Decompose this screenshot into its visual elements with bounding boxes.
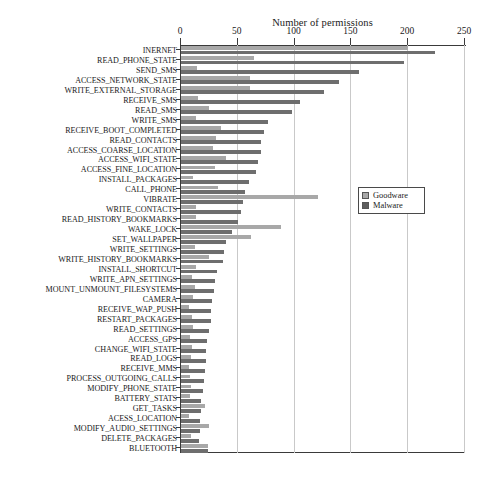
bar-malware <box>181 319 211 323</box>
y-tick-mark <box>176 248 180 249</box>
bar-goodware <box>181 335 190 339</box>
bar-goodware <box>181 166 215 170</box>
bar-malware <box>181 279 215 283</box>
bar-goodware <box>181 56 254 60</box>
y-tick-mark <box>176 188 180 189</box>
bar-goodware <box>181 315 192 319</box>
bar-malware <box>181 150 261 154</box>
bar-goodware <box>181 146 213 150</box>
bar-goodware <box>181 414 189 418</box>
x-tick-label: 250 <box>444 26 484 36</box>
bar-malware <box>181 260 223 264</box>
bar-goodware <box>181 305 189 309</box>
y-tick-mark <box>176 328 180 329</box>
y-tick-mark <box>176 49 180 50</box>
bar-goodware <box>181 394 190 398</box>
bar-malware <box>181 250 224 254</box>
bar-malware <box>181 240 226 244</box>
bar-malware <box>181 61 404 65</box>
bar-malware <box>181 110 292 114</box>
y-tick-mark <box>176 238 180 239</box>
bar-goodware <box>181 365 189 369</box>
legend-swatch-goodware-icon <box>362 192 369 199</box>
bar-goodware <box>181 404 205 408</box>
bar-malware <box>181 140 261 144</box>
bar-malware <box>181 160 258 164</box>
bar-malware <box>181 379 204 383</box>
bar-goodware <box>181 385 191 389</box>
y-tick-mark <box>176 318 180 319</box>
y-tick-mark <box>176 427 180 428</box>
y-tick-mark <box>176 198 180 199</box>
x-tick-mark <box>294 38 295 45</box>
bar-malware <box>181 309 211 313</box>
y-tick-mark <box>176 99 180 100</box>
y-tick-mark <box>176 308 180 309</box>
y-tick-mark <box>176 178 180 179</box>
y-tick-mark <box>176 208 180 209</box>
y-tick-mark <box>176 288 180 289</box>
y-tick-mark <box>176 298 180 299</box>
permissions-bar-chart: Number of permissions 050100150200250 IN… <box>0 0 488 478</box>
bar-goodware <box>181 106 209 110</box>
chart-legend: Goodware Malware <box>358 187 425 214</box>
bar-goodware <box>181 116 196 120</box>
bar-malware <box>181 439 199 443</box>
x-tick-label: 100 <box>274 26 314 36</box>
y-tick-mark <box>176 367 180 368</box>
y-tick-mark <box>176 109 180 110</box>
bar-malware <box>181 409 201 413</box>
y-tick-mark <box>176 139 180 140</box>
x-tick-mark <box>237 38 238 45</box>
bar-malware <box>181 419 200 423</box>
legend-label-goodware: Goodware <box>373 191 408 200</box>
bar-goodware <box>181 215 196 219</box>
bar-goodware <box>181 176 193 180</box>
legend-item-goodware[interactable]: Goodware <box>362 190 421 200</box>
y-tick-mark <box>176 258 180 259</box>
bar-malware <box>181 220 238 224</box>
y-tick-mark <box>176 129 180 130</box>
bar-malware <box>181 80 339 84</box>
bar-malware <box>181 51 435 55</box>
y-tick-mark <box>176 447 180 448</box>
bar-malware <box>181 429 200 433</box>
bar-goodware <box>181 66 197 70</box>
y-tick-mark <box>176 397 180 398</box>
x-tick-mark <box>464 38 465 45</box>
x-tick-mark <box>350 38 351 45</box>
bar-malware <box>181 270 217 274</box>
bar-goodware <box>181 235 251 239</box>
chart-row: BLUETOOTH <box>0 443 488 454</box>
y-tick-mark <box>176 79 180 80</box>
bar-goodware <box>181 76 250 80</box>
bar-malware <box>181 170 256 174</box>
bar-malware <box>181 70 359 74</box>
bar-malware <box>181 359 206 363</box>
bar-malware <box>181 190 245 194</box>
y-tick-mark <box>176 89 180 90</box>
bar-goodware <box>181 136 216 140</box>
bar-goodware <box>181 245 195 249</box>
legend-item-malware[interactable]: Malware <box>362 200 421 210</box>
bar-goodware <box>181 434 191 438</box>
bar-goodware <box>181 295 193 299</box>
bar-malware <box>181 389 203 393</box>
y-tick-mark <box>176 218 180 219</box>
bar-goodware <box>181 195 318 199</box>
bar-malware <box>181 90 324 94</box>
bar-malware <box>181 230 232 234</box>
y-tick-mark <box>176 168 180 169</box>
y-tick-mark <box>176 417 180 418</box>
bar-goodware <box>181 375 190 379</box>
bar-goodware <box>181 186 218 190</box>
bar-goodware <box>181 46 408 50</box>
y-tick-mark <box>176 338 180 339</box>
y-tick-mark <box>176 268 180 269</box>
bar-malware <box>181 200 243 204</box>
y-tick-mark <box>176 228 180 229</box>
y-tick-mark <box>176 377 180 378</box>
bar-malware <box>181 369 205 373</box>
legend-swatch-malware-icon <box>362 202 369 209</box>
bar-goodware <box>181 285 195 289</box>
